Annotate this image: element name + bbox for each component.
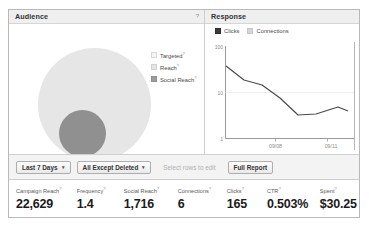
stat-value-social-reach: 1,716 <box>124 197 178 212</box>
stat-value-connections: 6 <box>178 197 227 212</box>
stat-value-campaign-reach: 22,629 <box>16 197 77 212</box>
filter-toolbar: Last 7 Days▾ All Except Deleted▾ Select … <box>9 154 359 180</box>
date-range-label: Last 7 Days <box>22 164 58 171</box>
campaign-dashboard-screenshot: Audience ? Targeted? Reach? <box>0 0 369 228</box>
stat-help-social-reach[interactable]: ? <box>157 186 159 191</box>
legend-help-social-reach[interactable]: ? <box>194 75 196 80</box>
legend-help-targeted[interactable]: ? <box>183 51 185 56</box>
stat-label-text-ctr: CTR <box>267 188 279 194</box>
stat-help-connections[interactable]: ? <box>209 186 211 191</box>
full-report-button[interactable]: Full Report <box>228 161 274 174</box>
stat-label-frequency: Frequency? <box>77 185 124 195</box>
chart-xlabel-2: 09/11 <box>325 143 338 149</box>
stat-label-text-connections: Connections <box>178 188 209 194</box>
legend-swatch-social-reach <box>151 76 157 82</box>
legend-item-social-reach: Social Reach? <box>151 73 205 84</box>
stat-label-text-clicks: Clicks <box>227 188 242 194</box>
legend-text-targeted: Targeted <box>160 52 183 58</box>
stat-ctr: CTR? 0.503% <box>267 185 320 212</box>
response-legend: Clicks Connections <box>215 28 297 34</box>
legend-item-connections: Connections <box>247 28 288 34</box>
legend-swatch-reach <box>151 64 157 70</box>
stat-label-social-reach: Social Reach? <box>124 185 178 195</box>
chart-ylabel-100: 100 <box>215 44 224 50</box>
stat-label-ctr: CTR? <box>267 185 320 195</box>
legend-swatch-targeted <box>151 52 157 58</box>
chart-ylabel-1: 1 <box>220 136 223 142</box>
panels-row: Audience ? Targeted? Reach? <box>9 10 359 154</box>
status-filter-label: All Except Deleted <box>83 164 139 171</box>
audience-legend: Targeted? Reach? Social Reach? <box>151 49 205 85</box>
response-panel-header: Response <box>205 10 359 24</box>
response-panel-title: Response <box>211 12 246 21</box>
stat-spent: Spent? $30.25 <box>320 185 359 212</box>
stat-clicks: Clicks? 165 <box>227 185 267 212</box>
stat-label-text-frequency: Frequency <box>77 188 103 194</box>
legend-label-connections: Connections <box>256 28 288 34</box>
legend-swatch-connections <box>247 28 253 34</box>
legend-label-targeted: Targeted? <box>160 51 185 59</box>
venn-circle-social-reach <box>59 110 106 157</box>
chart-xlabel-1: 09/08 <box>269 143 282 149</box>
legend-label-clicks: Clicks <box>224 28 239 34</box>
stat-label-text-spent: Spent <box>320 188 335 194</box>
audience-panel-header: Audience ? <box>9 10 204 24</box>
stat-help-spent[interactable]: ? <box>334 186 336 191</box>
legend-swatch-clicks <box>215 28 221 34</box>
stat-help-campaign-reach[interactable]: ? <box>59 186 61 191</box>
dashboard-frame: Audience ? Targeted? Reach? <box>8 9 360 218</box>
chart-ylabel-10: 10 <box>217 90 223 96</box>
stat-help-ctr[interactable]: ? <box>278 186 280 191</box>
legend-help-reach[interactable]: ? <box>177 63 179 68</box>
legend-text-social-reach: Social Reach <box>160 76 194 82</box>
legend-label-social-reach: Social Reach? <box>160 75 197 83</box>
stat-label-connections: Connections? <box>178 185 227 195</box>
chevron-down-icon: ▾ <box>142 164 145 170</box>
status-filter-dropdown[interactable]: All Except Deleted▾ <box>77 161 152 174</box>
legend-label-reach: Reach? <box>160 63 179 71</box>
stat-label-clicks: Clicks? <box>227 185 267 195</box>
audience-panel: Audience ? Targeted? Reach? <box>9 10 205 154</box>
stat-help-clicks[interactable]: ? <box>242 186 244 191</box>
stat-help-frequency[interactable]: ? <box>103 186 105 191</box>
legend-item-reach: Reach? <box>151 61 205 72</box>
stat-value-clicks: 165 <box>227 197 267 212</box>
date-range-dropdown[interactable]: Last 7 Days▾ <box>16 161 71 174</box>
response-line-chart: 100 10 1 09/08 09/11 <box>205 40 359 154</box>
stat-value-spent: $30.25 <box>320 197 359 212</box>
stat-label-text-campaign-reach: Campaign Reach <box>16 188 59 194</box>
select-rows-to-edit-button: Select rows to edit <box>157 161 221 174</box>
response-panel: Response Clicks Connections <box>205 10 359 154</box>
stat-connections: Connections? 6 <box>178 185 227 212</box>
legend-text-reach: Reach <box>160 64 177 70</box>
legend-item-clicks: Clicks <box>215 28 239 34</box>
chart-series-clicks <box>226 66 348 115</box>
stat-label-spent: Spent? <box>320 185 359 195</box>
stat-label-text-social-reach: Social Reach <box>124 188 157 194</box>
stat-social-reach: Social Reach? 1,716 <box>124 185 178 212</box>
chevron-down-icon: ▾ <box>62 164 65 170</box>
stat-value-frequency: 1.4 <box>77 197 124 212</box>
stat-value-ctr: 0.503% <box>267 197 320 212</box>
legend-item-targeted: Targeted? <box>151 49 205 60</box>
stat-label-campaign-reach: Campaign Reach? <box>16 185 77 195</box>
audience-venn-diagram: Targeted? Reach? Social Reach? <box>9 24 205 154</box>
summary-stats-row: Campaign Reach? 22,629 Frequency? 1.4 So… <box>9 180 359 217</box>
question-mark-icon[interactable]: ? <box>196 13 199 19</box>
chart-svg: 100 10 1 09/08 09/11 <box>205 40 359 154</box>
stat-campaign-reach: Campaign Reach? 22,629 <box>16 185 77 212</box>
audience-panel-title: Audience <box>15 12 48 21</box>
stat-frequency: Frequency? 1.4 <box>77 185 124 212</box>
